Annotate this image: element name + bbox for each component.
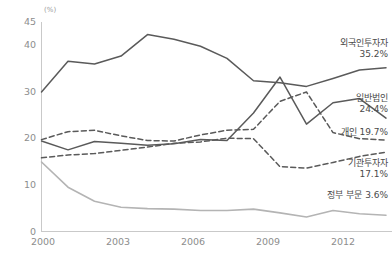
x-tick-2012: 2012 [323, 236, 363, 247]
series-line-corporation [42, 77, 387, 150]
series-label-government: 정부 부문 3.6% [327, 190, 388, 201]
y-tick-40: 40 [14, 39, 36, 50]
series-label-foreign-value: 35.2% [340, 49, 388, 60]
chart-plot-area [0, 0, 392, 253]
series-label-foreign-name: 외국인투자자 [340, 38, 388, 49]
series-label-institution-value: 17.1% [348, 169, 388, 180]
y-tick-45: 45 [14, 16, 36, 27]
y-tick-30: 30 [14, 86, 36, 97]
series-label-institution-name: 기관투자자 [348, 158, 388, 169]
series-label-corporation: 일반법인 24.4% [356, 93, 388, 115]
series-label-institution: 기관투자자 17.1% [348, 158, 388, 180]
y-tick-20: 20 [14, 132, 36, 143]
y-tick-10: 10 [14, 179, 36, 190]
x-tick-2006: 2006 [173, 236, 213, 247]
x-tick-2003: 2003 [98, 236, 138, 247]
y-axis-unit-label: (%) [44, 6, 56, 14]
series-line-individual [42, 92, 387, 141]
series-label-foreign: 외국인투자자 35.2% [340, 38, 388, 60]
series-label-individual: 개인 19.7% [341, 127, 388, 138]
series-label-corporation-name: 일반법인 [356, 93, 388, 104]
series-label-corporation-value: 24.4% [356, 104, 388, 115]
series-line-institution [42, 138, 387, 168]
line-chart: (%) 45 40 30 20 10 0 2000 2003 2006 2009… [0, 0, 392, 253]
series-line-foreign [42, 35, 387, 92]
x-tick-2009: 2009 [248, 236, 288, 247]
x-tick-2000: 2000 [23, 236, 63, 247]
